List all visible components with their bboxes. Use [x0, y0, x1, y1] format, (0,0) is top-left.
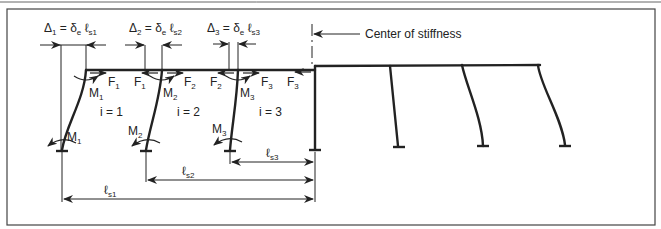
column-6 — [462, 65, 483, 146]
delta-3-dimension — [213, 42, 256, 70]
force-label-f2-left: F2 — [210, 75, 222, 91]
bay-label-2: i = 2 — [177, 105, 200, 119]
center-of-stiffness-label: Center of stiffness — [365, 27, 462, 41]
column-5 — [390, 66, 398, 146]
column-3 — [230, 70, 238, 150]
column-7 — [538, 65, 565, 145]
delta-2-dimension — [125, 45, 182, 70]
top-moment-label-m2: M2 — [163, 86, 178, 102]
twist-diagram: Center of stiffness Δ1 = δe ℓs1 Δ2 = δe … — [0, 0, 661, 229]
force-label-f1-right: F1 — [108, 75, 120, 91]
svg-text:Δ3 = δe ℓs3: Δ3 = δe ℓs3 — [207, 21, 261, 37]
svg-text:Δ2 = δe ℓs2: Δ2 = δe ℓs2 — [129, 21, 183, 37]
column-2 — [146, 70, 162, 150]
force-label-f3-right: F3 — [261, 75, 273, 91]
distance-label-ls2: ℓs2 — [182, 164, 195, 180]
delta-1-label: Δ1 = δe ℓs1 — [44, 21, 98, 37]
force-arrows — [90, 72, 311, 73]
force-label-f3-left: F3 — [287, 75, 299, 91]
delta-3-label: Δ3 = δe ℓs3 — [207, 21, 261, 37]
base-moment-label-m3: M3 — [212, 122, 227, 138]
distance-label-ls3: ℓs3 — [266, 146, 279, 162]
svg-text:Δ1 = δe ℓs1: Δ1 = δe ℓs1 — [44, 21, 98, 37]
force-label-f1-left: F1 — [134, 75, 146, 91]
bay-label-3: i = 3 — [259, 105, 282, 119]
base-plates — [56, 146, 571, 151]
base-moment-label-m1: M1 — [67, 130, 82, 146]
force-label-f2-right: F2 — [184, 75, 196, 91]
distance-label-ls1: ℓs1 — [104, 183, 117, 199]
roof-beam-right — [315, 65, 540, 66]
top-moment-label-m1: M1 — [89, 86, 104, 102]
bay-label-1: i = 1 — [100, 105, 123, 119]
base-moment-label-m2: M2 — [128, 124, 143, 140]
top-moment-label-m3: M3 — [240, 86, 255, 102]
delta-2-label: Δ2 = δe ℓs2 — [129, 21, 183, 37]
